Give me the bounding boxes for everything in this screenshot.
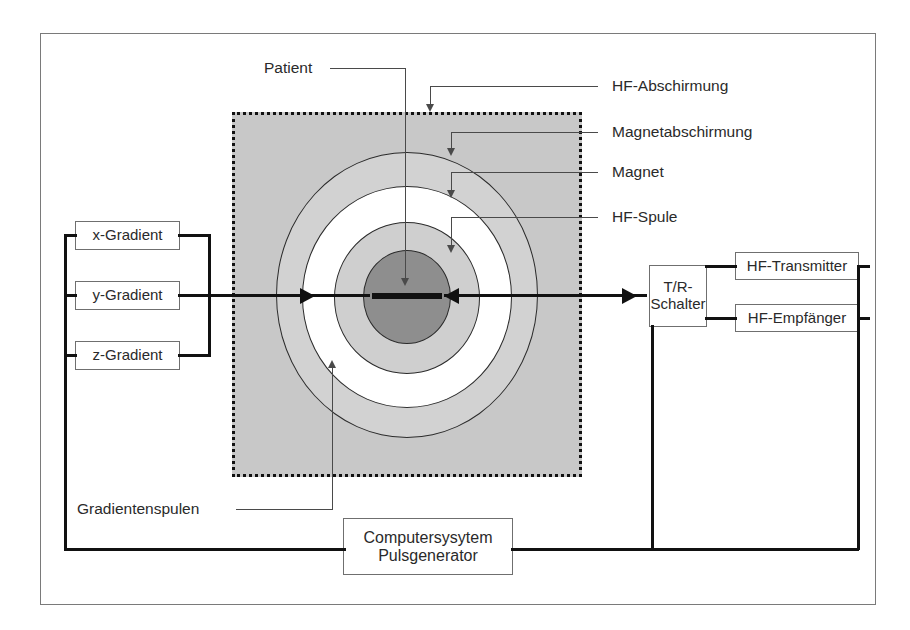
- switch-receiver-link: [705, 317, 737, 320]
- computer-system-label-line2: Pulsgenerator: [378, 547, 478, 565]
- rf-right-bus: [857, 265, 860, 550]
- z-gradient-in-stub: [64, 354, 77, 357]
- patient-inbound-arrowhead: [444, 288, 459, 304]
- hf-transmitter-label: HF-Transmitter: [747, 258, 847, 275]
- gradient-coils-label: Gradientenspulen: [77, 500, 199, 518]
- hf-coil-arrowhead: [447, 245, 455, 253]
- patient-leader-v: [405, 68, 406, 283]
- computer-system-label-line1: Computersysytem: [364, 529, 493, 547]
- gradient-to-patient-arrowhead: [300, 288, 315, 304]
- z-gradient-box[interactable]: z-Gradient: [75, 341, 180, 370]
- y-gradient-label: y-Gradient: [92, 287, 162, 304]
- patient-to-switch-line: [444, 294, 647, 297]
- z-gradient-out-stub: [178, 354, 211, 357]
- tr-switch-box[interactable]: T/R- Schalter: [649, 265, 707, 327]
- hf-transmitter-box[interactable]: HF-Transmitter: [735, 252, 859, 280]
- computer-system-box[interactable]: Computersysytem Pulsgenerator: [343, 518, 513, 575]
- hf-receiver-box[interactable]: HF-Empfänger: [735, 304, 859, 332]
- x-gradient-in-stub: [64, 234, 77, 237]
- switch-transmitter-link: [705, 265, 737, 268]
- magnet-arrowhead: [447, 190, 455, 198]
- z-gradient-label: z-Gradient: [92, 347, 162, 364]
- bottom-bus-left: [64, 548, 346, 551]
- x-gradient-label: x-Gradient: [92, 227, 162, 244]
- y-gradient-in-stub: [64, 294, 77, 297]
- x-gradient-box[interactable]: x-Gradient: [75, 221, 180, 250]
- gradient-coils-leader-v: [332, 368, 333, 510]
- diagram-canvas: x-Gradient y-Gradient z-Gradient T/R- Sc…: [0, 0, 910, 630]
- patient-arrowhead: [401, 278, 409, 286]
- y-gradient-box[interactable]: y-Gradient: [75, 281, 180, 310]
- gradient-to-patient-line: [178, 294, 370, 297]
- hf-receiver-label: HF-Empfänger: [748, 310, 846, 327]
- patient-table-bar: [372, 293, 442, 299]
- gradient-coils-arrowhead: [328, 360, 336, 368]
- tr-switch-label-line2: Schalter: [650, 296, 705, 313]
- magnet-leader-h: [451, 172, 598, 173]
- tr-switch-label-line1: T/R-: [663, 279, 692, 296]
- gradient-coils-leader-h: [236, 509, 333, 510]
- hf-shielding-leader-h: [430, 86, 598, 87]
- magnet-shielding-label: Magnetabschirmung: [612, 123, 752, 141]
- switch-to-computer-line: [651, 325, 654, 550]
- x-gradient-out-stub: [178, 234, 211, 237]
- switch-inbound-arrowhead: [622, 288, 637, 304]
- magnet-label: Magnet: [612, 163, 664, 181]
- hf-shielding-label: HF-Abschirmung: [612, 77, 728, 95]
- hf-coil-leader-h: [451, 217, 598, 218]
- magnet-shielding-leader-h: [451, 132, 598, 133]
- patient-leader-h: [330, 68, 406, 69]
- bottom-bus-right: [511, 548, 859, 551]
- gradient-left-bus: [64, 234, 67, 550]
- magnet-shielding-arrowhead: [447, 148, 455, 156]
- hf-coil-label: HF-Spule: [612, 208, 677, 226]
- patient-label: Patient: [264, 59, 312, 77]
- hf-shielding-arrowhead: [426, 104, 434, 112]
